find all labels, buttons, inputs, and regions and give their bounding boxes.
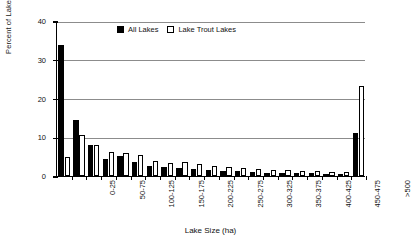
bar-group — [160, 22, 175, 176]
y-axis-title: Percent of Lakes — [2, 0, 16, 80]
bar-lake-trout-lakes — [138, 155, 143, 176]
y-axis-tick-label: 30 — [26, 57, 46, 65]
bar-group — [307, 22, 322, 176]
bar-group — [175, 22, 190, 176]
bar-group — [248, 22, 263, 176]
x-axis-tick-label: 400-425 — [344, 180, 354, 220]
bar-lake-trout-lakes — [315, 171, 320, 176]
bar-lake-trout-lakes — [94, 145, 99, 176]
open-square-icon — [167, 26, 174, 33]
x-axis-tick-labels: 0-2550-75100-125150-175200-225250-275300… — [56, 180, 365, 220]
bar-all-lakes — [103, 159, 108, 176]
legend-label: All Lakes — [128, 25, 158, 34]
x-axis-title: Lake Size (ha) — [56, 226, 365, 235]
y-axis-tick — [53, 176, 58, 177]
bar-lake-trout-lakes — [241, 168, 246, 176]
bar-group — [131, 22, 146, 176]
y-axis-tick-label: 0 — [26, 173, 46, 181]
chart-legend: All Lakes Lake Trout Lakes — [111, 21, 242, 37]
x-axis-tick-label: 250-275 — [256, 180, 266, 220]
bar-groups — [57, 22, 365, 176]
x-axis-tick — [366, 176, 367, 180]
bar-all-lakes — [220, 171, 225, 176]
filled-square-icon — [117, 26, 124, 33]
x-axis-tick-label: 200-225 — [226, 180, 236, 220]
y-axis-tick-label: 40 — [26, 18, 46, 26]
bar-all-lakes — [235, 171, 240, 176]
x-axis-tick-label: >500 — [403, 180, 413, 220]
x-axis-tick-label: 100-125 — [167, 180, 177, 220]
bar-lake-trout-lakes — [123, 153, 128, 176]
bar-group — [189, 22, 204, 176]
bar-group — [278, 22, 293, 176]
bar-all-lakes — [191, 169, 196, 176]
bar-group — [219, 22, 234, 176]
x-axis-tick-label: 0-25 — [108, 180, 118, 220]
bar-lake-trout-lakes — [285, 170, 290, 176]
bar-lake-trout-lakes — [197, 164, 202, 176]
bar-lake-trout-lakes — [256, 169, 261, 176]
legend-item-all-lakes: All Lakes — [117, 25, 158, 34]
y-axis-tick-label: 20 — [26, 96, 46, 104]
bar-all-lakes — [58, 45, 63, 176]
bar-lake-trout-lakes — [212, 166, 217, 176]
bar-group — [116, 22, 131, 176]
y-axis-tick-labels: 010203040 — [24, 0, 46, 245]
bar-lake-trout-lakes — [79, 135, 84, 176]
bar-group — [204, 22, 219, 176]
bar-all-lakes — [117, 156, 122, 176]
bar-all-lakes — [294, 173, 299, 176]
bar-all-lakes — [353, 133, 358, 176]
bar-all-lakes — [73, 120, 78, 176]
bar-lake-trout-lakes — [359, 86, 364, 176]
x-axis-tick-label: 450-475 — [373, 180, 383, 220]
bar-all-lakes — [264, 173, 269, 176]
bar-all-lakes — [176, 168, 181, 176]
x-axis-tick-label: 150-175 — [197, 180, 207, 220]
bar-all-lakes — [132, 162, 137, 176]
bar-lake-trout-lakes — [109, 152, 114, 176]
bar-lake-trout-lakes — [344, 172, 349, 176]
bar-lake-trout-lakes — [300, 171, 305, 176]
bar-lake-trout-lakes — [329, 172, 334, 176]
bar-all-lakes — [323, 174, 328, 176]
y-axis-tick-label: 10 — [26, 134, 46, 142]
bar-all-lakes — [88, 145, 93, 176]
bar-group — [145, 22, 160, 176]
legend-label: Lake Trout Lakes — [178, 25, 236, 34]
bar-all-lakes — [206, 170, 211, 176]
bar-group — [263, 22, 278, 176]
bar-group — [292, 22, 307, 176]
bar-all-lakes — [338, 174, 343, 176]
bar-lake-trout-lakes — [168, 163, 173, 176]
x-axis-tick-label: 50-75 — [138, 180, 148, 220]
bar-group — [234, 22, 249, 176]
bar-lake-trout-lakes — [271, 170, 276, 176]
bar-lake-trout-lakes — [182, 162, 187, 176]
bar-all-lakes — [279, 173, 284, 176]
bar-lake-trout-lakes — [153, 161, 158, 176]
bar-all-lakes — [250, 172, 255, 176]
bar-lake-trout-lakes — [226, 167, 231, 176]
legend-item-lake-trout-lakes: Lake Trout Lakes — [167, 25, 236, 34]
bar-all-lakes — [147, 166, 152, 176]
bar-group — [337, 22, 352, 176]
bar-group — [101, 22, 116, 176]
bar-group — [86, 22, 101, 176]
bar-all-lakes — [309, 173, 314, 176]
bar-group — [72, 22, 87, 176]
x-axis-tick-label: 350-375 — [314, 180, 324, 220]
bar-all-lakes — [161, 167, 166, 176]
x-axis-tick-label: 300-325 — [285, 180, 295, 220]
bar-group — [351, 22, 366, 176]
bar-group — [57, 22, 72, 176]
plot-area — [56, 22, 365, 177]
bar-lake-trout-lakes — [65, 157, 70, 176]
bar-group — [322, 22, 337, 176]
